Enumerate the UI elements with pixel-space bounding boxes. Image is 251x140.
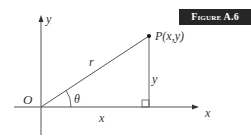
radius-label: r	[89, 55, 94, 69]
angle-arc-icon	[66, 90, 71, 107]
y-axis-label: y	[45, 12, 52, 26]
origin-label: O	[23, 92, 33, 107]
point-p-label: P(x,y)	[154, 29, 184, 43]
x-axis-arrow-icon	[192, 105, 199, 110]
angle-theta-label: θ	[74, 92, 80, 106]
right-angle-marker-icon	[142, 100, 149, 107]
horizontal-leg-label: x	[98, 111, 105, 125]
y-axis-arrow-icon	[39, 15, 44, 22]
point-p-dot	[147, 34, 151, 38]
polar-coordinates-diagram: y x O θ r P(x,y) x y	[0, 0, 251, 140]
vertical-leg-label: y	[151, 72, 158, 86]
x-axis-label: x	[204, 106, 211, 120]
radius-line	[41, 36, 149, 107]
